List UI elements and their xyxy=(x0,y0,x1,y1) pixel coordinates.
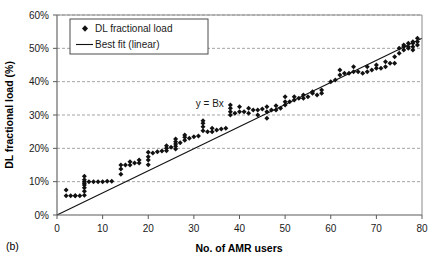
y-tick-label-40%: 40% xyxy=(29,76,49,87)
y-tick-label-60%: 60% xyxy=(29,10,49,21)
y-tick-label-10%: 10% xyxy=(29,176,49,187)
x-axis-tick-labels: 01020304050607080 xyxy=(54,223,428,234)
x-tick-label-30: 30 xyxy=(188,223,200,234)
panel-label: (b) xyxy=(6,240,19,252)
legend-entry-dl-fractional-load: DL fractional load xyxy=(82,23,172,34)
x-tick-label-0: 0 xyxy=(54,223,60,234)
figure-panel-b: 01020304050607080 0%10%20%30%40%50%60% N… xyxy=(0,0,446,267)
chart-legend: DL fractional load Best fit (linear) xyxy=(70,19,208,54)
x-tick-label-50: 50 xyxy=(280,223,292,234)
y-axis-tick-labels: 0%10%20%30%40%50%60% xyxy=(29,10,49,221)
x-tick-label-10: 10 xyxy=(97,223,109,234)
chart-annotations: y = Bx xyxy=(196,98,224,109)
scatter-chart: 01020304050607080 0%10%20%30%40%50%60% N… xyxy=(0,0,446,267)
x-tick-label-40: 40 xyxy=(234,223,246,234)
x-tick-label-20: 20 xyxy=(143,223,155,234)
y-tick-label-30%: 30% xyxy=(29,110,49,121)
x-axis-title: No. of AMR users xyxy=(195,242,282,254)
legend-label-1: Best fit (linear) xyxy=(95,39,159,50)
annotation-0: y = Bx xyxy=(196,98,224,109)
legend-label-0: DL fractional load xyxy=(95,23,172,34)
x-tick-label-60: 60 xyxy=(325,223,337,234)
y-tick-label-50%: 50% xyxy=(29,43,49,54)
y-axis-title: DL fractional load (%) xyxy=(3,61,15,169)
y-axis-ticks xyxy=(53,15,57,215)
x-tick-label-80: 80 xyxy=(416,223,428,234)
x-tick-label-70: 70 xyxy=(371,223,383,234)
y-tick-label-0%: 0% xyxy=(35,210,50,221)
x-axis-ticks xyxy=(57,215,422,219)
y-tick-label-20%: 20% xyxy=(29,143,49,154)
